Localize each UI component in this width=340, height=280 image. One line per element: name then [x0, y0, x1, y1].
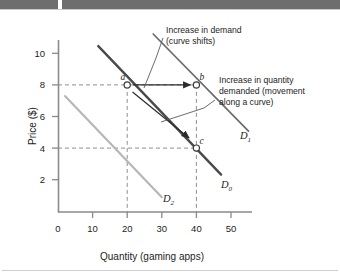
x-axis-ticks: 0 10 20 30 40 50 [55, 212, 236, 234]
x-tick-label-10: 10 [87, 223, 98, 234]
footer-rule [2, 270, 338, 271]
header-band [0, 0, 340, 9]
y-tick-label-6: 6 [40, 111, 45, 122]
figure-canvas: 10 8 6 4 2 0 10 20 30 40 50 Price ($) Qu… [0, 0, 340, 280]
y-axis-title: Price ($) [27, 107, 38, 145]
x-axis-title: Quantity (gaming apps) [100, 251, 204, 262]
point-label-a: a [121, 72, 126, 82]
annotation-increase-in-demand-line-1: Increase in demand [166, 25, 242, 35]
point-label-b: b [200, 72, 205, 82]
curve-d2-subscript: 2 [171, 199, 175, 207]
point-marker-b [193, 82, 199, 88]
y-tick-label-10: 10 [34, 48, 45, 59]
y-tick-label-8: 8 [40, 79, 45, 90]
curve-d1-subscript: 1 [248, 136, 252, 144]
curve-d0-line [98, 46, 221, 175]
movement-arrow [133, 92, 190, 138]
header-band-gap [58, 0, 62, 9]
annotation-increase-in-quantity-demanded-line-3: along a curve) [219, 97, 274, 107]
annotation-increase-in-quantity-demanded-line-1: Increase in quantity [219, 75, 294, 85]
x-tick-label-30: 30 [157, 223, 168, 234]
x-tick-label-0: 0 [55, 223, 60, 234]
point-label-c: c [200, 136, 205, 146]
point-marker-a [124, 82, 130, 88]
demand-curve-chart: 10 8 6 4 2 0 10 20 30 40 50 Price ($) Qu… [0, 10, 340, 272]
annotation-increase-in-demand-line-2: (curve shifts) [166, 36, 215, 46]
guide-lines [58, 85, 196, 212]
annotation-increase-in-demand-leader [144, 38, 163, 88]
x-tick-label-20: 20 [122, 223, 133, 234]
annotation-increase-in-quantity-demanded-line-2: demanded (movement [219, 86, 306, 96]
point-marker-c [193, 145, 199, 151]
curve-d2-line [65, 96, 162, 197]
curve-d0-subscript: 0 [229, 185, 233, 193]
x-tick-label-40: 40 [191, 223, 202, 234]
x-tick-label-50: 50 [226, 223, 237, 234]
y-tick-label-4: 4 [40, 143, 45, 154]
y-tick-label-2: 2 [40, 174, 45, 185]
